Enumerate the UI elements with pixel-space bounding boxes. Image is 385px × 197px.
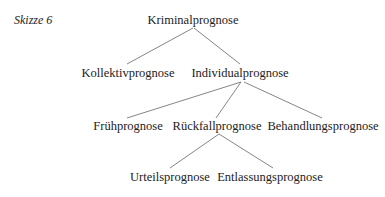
edge-rueckfall-urteil xyxy=(170,134,219,168)
edge-root-kollektiv xyxy=(127,28,193,64)
edge-root-individual xyxy=(194,28,240,64)
node-fruehprognose: Frühprognose xyxy=(93,119,162,133)
tree-diagram: Skizze 6 Kriminalprognose Kollektivprogn… xyxy=(0,0,385,197)
edge-individual-frueh xyxy=(127,82,241,118)
edge-individual-behandlung xyxy=(244,82,322,118)
node-urteilsprognose: Urteilsprognose xyxy=(130,170,210,184)
edge-rueckfall-entlassung xyxy=(219,134,273,168)
node-rueckfallprognose: Rückfallprognose xyxy=(173,119,262,133)
node-kriminalprognose: Kriminalprognose xyxy=(148,13,239,27)
edges xyxy=(0,0,385,197)
node-behandlungsprognose: Behandlungsprognose xyxy=(267,119,378,133)
edge-individual-rueckfall xyxy=(216,82,241,118)
node-individualprognose: Individualprognose xyxy=(191,66,288,80)
node-kollektivprognose: Kollektivprognose xyxy=(81,66,174,80)
node-entlassungsprognose: Entlassungsprognose xyxy=(217,170,323,184)
